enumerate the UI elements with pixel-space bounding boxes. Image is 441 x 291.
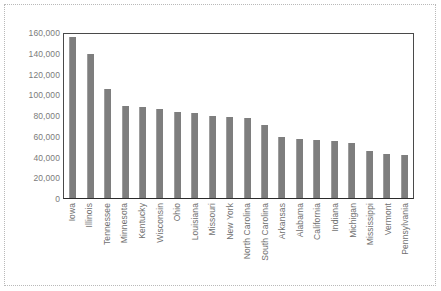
- y-axis-tick-label: 120,000: [2, 70, 60, 80]
- plot-area: [63, 33, 414, 199]
- x-axis-tick: Missouri: [209, 201, 216, 289]
- y-axis-tick-label: 100,000: [2, 90, 60, 100]
- x-axis-tick: California: [314, 201, 321, 289]
- x-axis-tick: Louisiana: [191, 201, 198, 289]
- x-axis-tick-label: Arkansas: [277, 203, 287, 239]
- bar: [331, 141, 338, 198]
- x-axis-tick-label: Tennessee: [102, 203, 112, 245]
- y-axis-tick-label: 0: [2, 194, 60, 204]
- x-axis-tick-label: Mississippi: [365, 203, 375, 245]
- x-axis-tick: Alabama: [296, 201, 303, 289]
- x-axis-tick: Ohio: [174, 201, 181, 289]
- x-axis-tick: Iowa: [68, 201, 75, 289]
- x-axis-tick: Arkansas: [279, 201, 286, 289]
- bar: [69, 37, 76, 198]
- x-axis-tick-label: Louisiana: [190, 203, 200, 240]
- x-axis-tick: North Carolina: [244, 201, 251, 289]
- bar-chart-figure: 020,00040,00060,00080,000100,000120,0001…: [0, 0, 441, 291]
- x-axis-tick-label: North Carolina: [242, 203, 252, 259]
- bar: [156, 109, 163, 198]
- bar: [296, 139, 303, 198]
- x-axis-tick-label: Indiana: [330, 203, 340, 232]
- x-axis-tick-label: Iowa: [67, 203, 77, 221]
- x-axis-tick: Kentucky: [138, 201, 145, 289]
- bar: [174, 112, 181, 198]
- x-axis-tick: Minnesota: [121, 201, 128, 289]
- x-axis-tick-label: Michigan: [348, 203, 358, 238]
- bar: [209, 116, 216, 198]
- bar: [244, 118, 251, 198]
- y-axis-tick-label: 20,000: [2, 173, 60, 183]
- y-axis: 020,00040,00060,00080,000100,000120,0001…: [0, 0, 60, 291]
- bar: [191, 113, 198, 198]
- y-axis-tick-label: 60,000: [2, 132, 60, 142]
- bar: [104, 89, 111, 198]
- x-axis-tick-label: Alabama: [295, 203, 305, 237]
- x-axis-tick-label: California: [312, 203, 322, 240]
- x-axis-tick-label: Ohio: [172, 203, 182, 221]
- x-axis-tick: Pennsylvania: [402, 201, 409, 289]
- x-axis: IowaIllinoisTennesseeMinnesotaKentuckyWi…: [63, 201, 414, 289]
- bar: [278, 137, 285, 198]
- x-axis-tick: Tennessee: [103, 201, 110, 289]
- bar: [226, 117, 233, 198]
- y-axis-tick-label: 160,000: [2, 28, 60, 38]
- bar: [401, 155, 408, 198]
- bar-series: [64, 34, 413, 198]
- y-axis-tick-label: 80,000: [2, 111, 60, 121]
- x-axis-tick-label: Vermont: [383, 203, 393, 235]
- x-axis-tick: Vermont: [384, 201, 391, 289]
- x-axis-tick: Mississippi: [367, 201, 374, 289]
- x-axis-tick: New York: [226, 201, 233, 289]
- x-axis-tick-label: Pennsylvania: [400, 203, 410, 255]
- bar: [348, 143, 355, 198]
- y-axis-tick-label: 40,000: [2, 153, 60, 163]
- x-axis-tick-label: South Carolina: [260, 203, 270, 261]
- x-axis-tick: Indiana: [331, 201, 338, 289]
- x-axis-tick-label: Kentucky: [137, 203, 147, 239]
- x-axis-tick-label: Wisconsin: [155, 203, 165, 243]
- x-axis-tick-label: New York: [225, 203, 235, 240]
- bar: [383, 154, 390, 198]
- bar: [139, 107, 146, 198]
- x-axis-tick: Wisconsin: [156, 201, 163, 289]
- x-axis-tick: Illinois: [86, 201, 93, 289]
- x-axis-tick-label: Illinois: [84, 203, 94, 227]
- x-axis-tick-label: Minnesota: [119, 203, 129, 243]
- y-axis-tick-label: 140,000: [2, 49, 60, 59]
- bar: [261, 125, 268, 198]
- bar: [122, 106, 129, 198]
- bar: [313, 140, 320, 198]
- bar: [366, 151, 373, 198]
- x-axis-tick-label: Missouri: [207, 203, 217, 235]
- bar: [87, 54, 94, 198]
- x-axis-tick: Michigan: [349, 201, 356, 289]
- x-axis-tick: South Carolina: [261, 201, 268, 289]
